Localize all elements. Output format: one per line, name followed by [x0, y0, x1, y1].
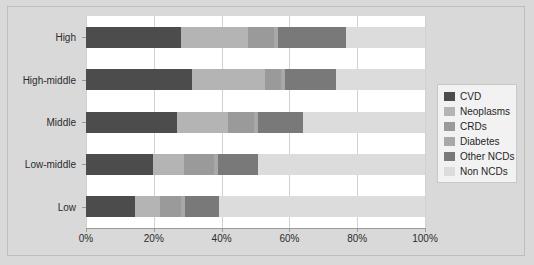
bar-segment — [336, 69, 425, 90]
x-axis-line — [86, 228, 426, 229]
y-tick — [82, 80, 86, 81]
bar-segment — [278, 27, 346, 48]
legend-item[interactable]: Non NCDs — [444, 165, 511, 177]
x-tick — [222, 228, 223, 232]
x-tick-label: 40% — [212, 233, 232, 244]
x-tick-label: 60% — [279, 233, 299, 244]
legend-swatch-icon — [444, 167, 455, 176]
bar-segment — [86, 196, 135, 217]
bar-segment — [86, 27, 181, 48]
x-tick-label: 80% — [347, 233, 367, 244]
gridline — [425, 16, 426, 228]
bar-row — [86, 69, 425, 90]
chart-figure: 0%20%40%60%80%100% HighHigh-middleMiddle… — [7, 6, 525, 256]
y-tick-label: Middle — [47, 117, 76, 128]
legend-item[interactable]: CRDs — [444, 120, 511, 132]
y-tick — [82, 37, 86, 38]
bar-segment — [177, 112, 228, 133]
legend-swatch-icon — [444, 152, 455, 161]
x-tick-label: 100% — [412, 233, 438, 244]
legend-item[interactable]: Diabetes — [444, 135, 511, 147]
bar-row — [86, 196, 425, 217]
bar-segment — [184, 154, 214, 175]
bar-segment — [228, 112, 254, 133]
bar-segment — [153, 154, 185, 175]
x-tick — [289, 228, 290, 232]
legend-label: CVD — [460, 91, 481, 102]
bar-segment — [192, 69, 265, 90]
bar-segment — [219, 196, 425, 217]
bar-segment — [135, 196, 160, 217]
x-tick — [357, 228, 358, 232]
bar-segment — [160, 196, 181, 217]
plot-area — [86, 16, 425, 228]
legend-label: Diabetes — [460, 136, 499, 147]
y-tick — [82, 122, 86, 123]
bar-segment — [86, 154, 153, 175]
legend-swatch-icon — [444, 92, 455, 101]
legend-label: Neoplasms — [460, 106, 510, 117]
y-tick-label: Low-middle — [25, 159, 76, 170]
x-tick — [154, 228, 155, 232]
legend-swatch-icon — [444, 122, 455, 131]
y-tick — [82, 164, 86, 165]
chart-legend: CVDNeoplasmsCRDsDiabetesOther NCDsNon NC… — [437, 84, 517, 183]
bar-segment — [185, 196, 219, 217]
bar-row — [86, 112, 425, 133]
legend-label: CRDs — [460, 121, 487, 132]
legend-swatch-icon — [444, 107, 455, 116]
y-tick — [82, 207, 86, 208]
x-tick-label: 0% — [79, 233, 93, 244]
bar-segment — [285, 69, 336, 90]
x-tick — [425, 228, 426, 232]
bar-segment — [181, 27, 248, 48]
bar-segment — [248, 27, 274, 48]
bar-row — [86, 154, 425, 175]
stacked-bars — [86, 16, 425, 228]
y-tick-label: Low — [58, 201, 76, 212]
bar-row — [86, 27, 425, 48]
bar-segment — [265, 69, 281, 90]
x-tick-label: 20% — [144, 233, 164, 244]
y-tick-label: High-middle — [23, 74, 76, 85]
legend-swatch-icon — [444, 137, 455, 146]
bar-segment — [86, 69, 192, 90]
bar-segment — [303, 112, 425, 133]
bar-segment — [86, 112, 177, 133]
legend-item[interactable]: Neoplasms — [444, 105, 511, 117]
legend-item[interactable]: CVD — [444, 90, 511, 102]
bar-segment — [258, 112, 303, 133]
x-tick — [86, 228, 87, 232]
legend-item[interactable]: Other NCDs — [444, 150, 511, 162]
y-tick-label: High — [55, 32, 76, 43]
bar-segment — [346, 27, 425, 48]
bar-segment — [218, 154, 257, 175]
legend-label: Other NCDs — [460, 151, 514, 162]
bar-segment — [258, 154, 425, 175]
legend-label: Non NCDs — [460, 166, 508, 177]
